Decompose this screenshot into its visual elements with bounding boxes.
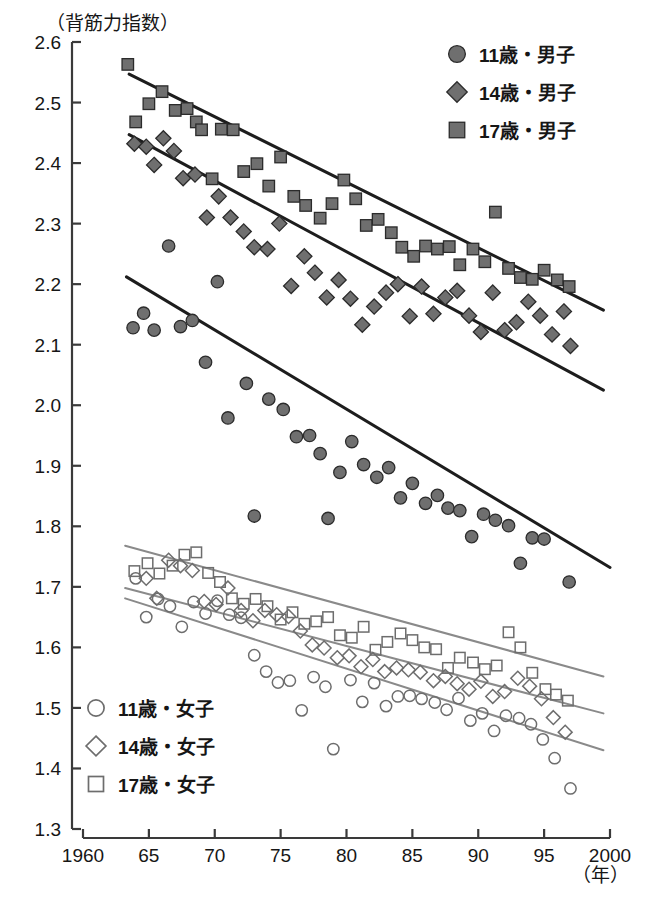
data-point-circle bbox=[477, 508, 489, 520]
data-point-square bbox=[326, 198, 338, 210]
data-point-circle bbox=[563, 576, 575, 588]
data-point-square bbox=[350, 193, 362, 205]
data-point-circle bbox=[137, 307, 149, 319]
data-point-square bbox=[314, 212, 326, 224]
data-point-circle bbox=[199, 356, 211, 368]
data-point-square bbox=[251, 158, 263, 170]
data-point-circle bbox=[303, 429, 315, 441]
data-point-circle bbox=[248, 510, 260, 522]
x-tick-label: 1960 bbox=[62, 845, 104, 866]
data-point-circle bbox=[148, 324, 160, 336]
data-point-circle bbox=[211, 276, 223, 288]
data-point-circle bbox=[526, 532, 538, 544]
data-point-square bbox=[449, 122, 465, 138]
y-tick-label: 1.5 bbox=[35, 698, 61, 719]
data-point-circle bbox=[502, 519, 514, 531]
data-point-square bbox=[300, 200, 312, 212]
x-tick-label: 80 bbox=[336, 845, 357, 866]
y-tick-label: 1.9 bbox=[35, 456, 61, 477]
data-point-square bbox=[490, 206, 502, 218]
data-point-square bbox=[122, 59, 134, 71]
data-point-circle bbox=[489, 514, 501, 526]
x-tick-label: 65 bbox=[138, 845, 159, 866]
y-tick-label: 1.8 bbox=[35, 516, 61, 537]
data-point-circle bbox=[394, 492, 406, 504]
data-point-square bbox=[372, 214, 384, 226]
y-tick-label: 2.3 bbox=[35, 214, 61, 235]
x-tick-label: 2000 bbox=[589, 845, 631, 866]
data-point-square bbox=[181, 103, 193, 115]
x-tick-label: 70 bbox=[204, 845, 225, 866]
data-point-square bbox=[361, 220, 373, 232]
data-point-square bbox=[396, 241, 408, 253]
data-point-circle bbox=[277, 403, 289, 415]
data-point-circle bbox=[290, 431, 302, 443]
x-tick-label: 95 bbox=[534, 845, 555, 866]
y-tick-label: 2.1 bbox=[35, 335, 61, 356]
data-point-square bbox=[169, 105, 181, 117]
data-point-square bbox=[444, 241, 456, 253]
data-point-square bbox=[527, 274, 539, 286]
data-point-circle bbox=[186, 314, 198, 326]
data-point-square bbox=[275, 151, 287, 163]
data-point-square bbox=[515, 272, 527, 284]
data-point-circle bbox=[371, 471, 383, 483]
data-point-circle bbox=[222, 412, 234, 424]
data-point-square bbox=[263, 180, 275, 192]
data-point-circle bbox=[162, 240, 174, 252]
x-tick-label: 90 bbox=[468, 845, 489, 866]
y-tick-label: 2.4 bbox=[35, 153, 62, 174]
data-point-circle bbox=[442, 502, 454, 514]
data-point-square bbox=[216, 123, 228, 135]
data-point-square bbox=[552, 274, 564, 286]
data-point-square bbox=[563, 281, 575, 293]
data-point-square bbox=[503, 263, 515, 275]
data-point-square bbox=[130, 116, 142, 128]
data-point-circle bbox=[419, 497, 431, 509]
data-point-square bbox=[386, 227, 398, 239]
data-point-circle bbox=[322, 512, 334, 524]
y-axis-title: （背筋力指数） bbox=[46, 13, 179, 34]
data-point-circle bbox=[127, 322, 139, 334]
data-point-square bbox=[227, 124, 239, 135]
data-point-circle bbox=[314, 447, 326, 459]
x-tick-label: 85 bbox=[402, 845, 423, 866]
data-point-circle bbox=[406, 477, 418, 489]
data-point-square bbox=[467, 243, 479, 255]
y-tick-label: 1.3 bbox=[35, 819, 61, 840]
data-point-circle bbox=[334, 466, 346, 478]
chart-container: 2.62.52.42.32.22.12.01.91.81.71.61.51.41… bbox=[0, 0, 645, 911]
legend-male-label: 17歳・男子 bbox=[479, 121, 576, 142]
data-point-circle bbox=[240, 377, 252, 389]
data-point-square bbox=[238, 166, 250, 178]
data-point-circle bbox=[382, 461, 394, 473]
data-point-square bbox=[432, 243, 444, 255]
legend-female-label: 14歳・女子 bbox=[118, 736, 215, 758]
data-point-circle bbox=[514, 557, 526, 569]
data-point-circle bbox=[454, 504, 466, 516]
data-point-square bbox=[156, 86, 168, 98]
y-tick-label: 2.0 bbox=[35, 395, 61, 416]
y-tick-label: 1.6 bbox=[35, 637, 61, 658]
data-point-circle bbox=[357, 458, 369, 470]
y-tick-label: 1.4 bbox=[35, 758, 62, 779]
data-point-circle bbox=[465, 530, 477, 542]
data-point-square bbox=[288, 191, 300, 203]
data-point-circle bbox=[538, 533, 550, 545]
data-point-square bbox=[408, 251, 420, 263]
data-point-circle bbox=[449, 46, 466, 63]
data-point-square bbox=[479, 256, 491, 268]
y-tick-label: 2.6 bbox=[35, 32, 61, 53]
data-point-circle bbox=[431, 489, 443, 501]
data-point-square bbox=[454, 259, 466, 271]
scatter-plot: 2.62.52.42.32.22.12.01.91.81.71.61.51.41… bbox=[0, 0, 645, 911]
data-point-circle bbox=[263, 393, 275, 405]
data-point-circle bbox=[346, 435, 358, 447]
legend-male-label: 14歳・男子 bbox=[479, 83, 576, 104]
legend-male-label: 11歳・男子 bbox=[479, 45, 575, 66]
data-point-circle bbox=[174, 320, 186, 332]
legend-female-label: 17歳・女子 bbox=[118, 774, 215, 796]
y-tick-label: 2.2 bbox=[35, 274, 61, 295]
data-point-square bbox=[206, 173, 218, 185]
data-point-square bbox=[420, 240, 432, 252]
